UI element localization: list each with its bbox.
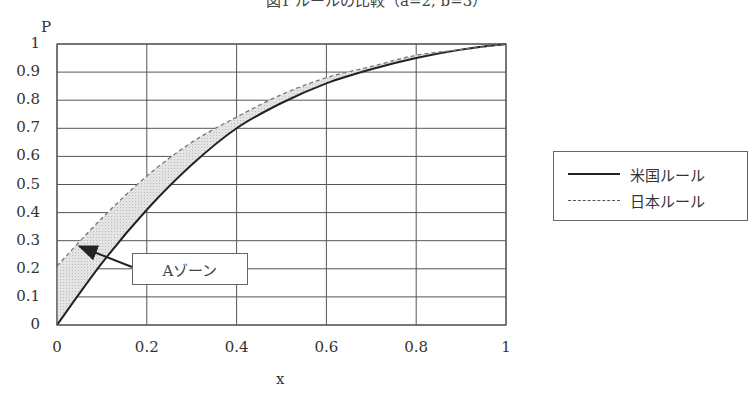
legend-item-us-rule: 米国ルール — [568, 164, 705, 184]
legend: 米国ルール 日本ルール — [553, 151, 748, 221]
solid-line-icon — [568, 173, 620, 175]
legend-label: 日本ルール — [630, 190, 705, 211]
legend-item-japan-rule: 日本ルール — [568, 190, 705, 210]
annotation-text: Aゾーン — [163, 259, 218, 280]
a-zone-annotation: Aゾーン — [132, 253, 248, 285]
grid-lines — [57, 44, 506, 325]
legend-label: 米国ルール — [630, 164, 705, 185]
dashed-line-icon — [568, 200, 620, 201]
